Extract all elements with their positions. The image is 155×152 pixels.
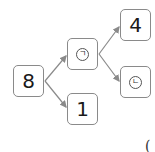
node-b-label: 1 [76,99,89,119]
node-d: ㄴ [120,66,151,98]
node-b: 1 [67,93,98,125]
node-a: ㄱ [67,38,98,70]
node-c-label: 4 [129,15,142,35]
node-root-label: 8 [22,71,35,91]
node-root: 8 [13,65,44,97]
node-d-circled-label: ㄴ [129,76,142,89]
trailing-paren: ( [145,138,150,152]
node-c: 4 [120,9,151,41]
node-a-circled-label: ㄱ [76,48,89,61]
